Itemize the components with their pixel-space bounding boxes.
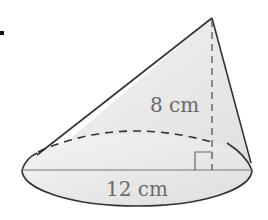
marker-dot	[0, 31, 4, 35]
diameter-label: 12 cm	[106, 177, 168, 201]
cone-diagram: 8 cm 12 cm	[0, 0, 268, 220]
height-label: 8 cm	[150, 93, 199, 117]
